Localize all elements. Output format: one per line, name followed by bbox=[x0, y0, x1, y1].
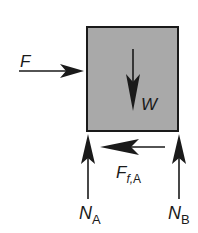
normal-force-a-label: NA bbox=[79, 203, 101, 227]
friction-label: Ff,A bbox=[116, 163, 141, 186]
normal-force-b-label: NB bbox=[168, 203, 190, 227]
normal-force-a-arrow bbox=[81, 134, 95, 199]
friction-arrow bbox=[100, 139, 165, 155]
applied-force-label: F bbox=[20, 52, 32, 71]
weight-label: W bbox=[141, 95, 159, 114]
normal-force-b-arrow bbox=[172, 134, 186, 199]
free-body-diagram: F W Ff,A NA NB bbox=[0, 0, 198, 233]
